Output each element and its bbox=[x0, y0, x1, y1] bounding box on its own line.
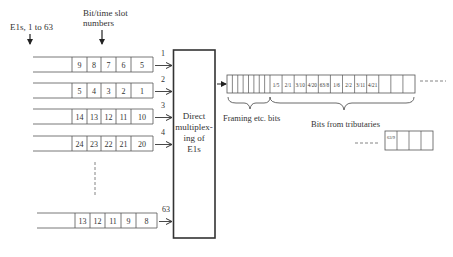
tributary-bit-cell: 2/2 bbox=[345, 82, 352, 88]
slot-cell: 6 bbox=[122, 61, 126, 70]
mux-label-line3: ing of bbox=[183, 133, 204, 143]
slot-cell: 9 bbox=[78, 61, 82, 70]
framing-bits-label: Framing etc. bits bbox=[223, 113, 280, 123]
slot-cell: 22 bbox=[105, 140, 113, 149]
tributary-bit-cell: 1/6 bbox=[333, 82, 340, 88]
slot-cell: 9 bbox=[127, 217, 131, 226]
tributary-bit-cell: 4/21 bbox=[368, 82, 378, 88]
slot-numbers-label-line2: numbers bbox=[83, 18, 114, 28]
tributary-bit-cell: 2/1 bbox=[285, 82, 292, 88]
slot-cell: 12 bbox=[105, 113, 113, 122]
slot-cell: 5 bbox=[78, 87, 82, 96]
slot-cell: 7 bbox=[107, 61, 111, 70]
tributary-bits-brace bbox=[270, 97, 414, 110]
slot-cell: 3 bbox=[107, 87, 111, 96]
slot-cell: 8 bbox=[145, 217, 149, 226]
e1s-label: E1s, 1 to 63 bbox=[10, 22, 54, 32]
continuation-frame: 63/9 bbox=[385, 131, 433, 150]
input-number-label: 2 bbox=[161, 75, 165, 84]
tributary-bit-cell: 4/20 bbox=[308, 82, 318, 88]
input-number-label: 3 bbox=[161, 101, 165, 110]
tributary-bit-cell: 1/5 bbox=[273, 82, 280, 88]
output-frame: 1/52/13/104/2063/81/62/23/114/21 bbox=[227, 75, 415, 93]
slot-cell: 11 bbox=[109, 217, 117, 226]
slot-cell: 20 bbox=[138, 140, 146, 149]
input-e1-rows: 9876515432121413121110324232221204131211… bbox=[33, 49, 172, 228]
slot-cell: 8 bbox=[92, 61, 96, 70]
tributary-bit-cell: 3/11 bbox=[356, 82, 365, 88]
slot-numbers-label-line1: Bit/time slot bbox=[83, 8, 128, 18]
input-e1-row-2: 543212 bbox=[33, 75, 172, 98]
input-e1-row-4: 24232221204 bbox=[33, 128, 172, 151]
slot-cell: 23 bbox=[90, 140, 98, 149]
slot-cell: 12 bbox=[94, 217, 102, 226]
tributary-bit-cell: 3/10 bbox=[296, 82, 306, 88]
input-number-label: 63 bbox=[162, 205, 170, 214]
slot-cell: 5 bbox=[140, 61, 144, 70]
slot-cell: 21 bbox=[120, 140, 128, 149]
mux-label-line4: E1s bbox=[187, 144, 201, 154]
slot-cell: 13 bbox=[79, 217, 87, 226]
tributary-bit-cell: 63/8 bbox=[320, 82, 330, 88]
mux-label-line2: multiplex- bbox=[175, 122, 213, 132]
slot-cell: 11 bbox=[120, 113, 128, 122]
input-number-label: 1 bbox=[161, 49, 165, 58]
input-e1-row-63: 1312119863 bbox=[37, 205, 172, 228]
framing-bits-brace bbox=[228, 97, 270, 109]
slot-cell: 13 bbox=[90, 113, 98, 122]
slot-cell: 4 bbox=[92, 87, 96, 96]
tributary-bits-label: Bits from tributaries bbox=[311, 119, 380, 129]
input-e1-row-1: 987651 bbox=[33, 49, 172, 72]
slot-cell: 1 bbox=[140, 87, 144, 96]
slot-cell: 10 bbox=[138, 113, 146, 122]
continuation-bit-cell: 63/9 bbox=[387, 135, 396, 140]
input-e1-row-3: 14131211103 bbox=[33, 101, 172, 124]
input-number-label: 4 bbox=[161, 128, 165, 137]
e1-direct-multiplexing-diagram: E1s, 1 to 63 Bit/time slot numbers 98765… bbox=[0, 0, 453, 257]
mux-label-line1: Direct bbox=[183, 111, 206, 121]
slot-cell: 24 bbox=[76, 140, 84, 149]
slot-cell: 14 bbox=[76, 113, 84, 122]
slot-cell: 2 bbox=[122, 87, 126, 96]
